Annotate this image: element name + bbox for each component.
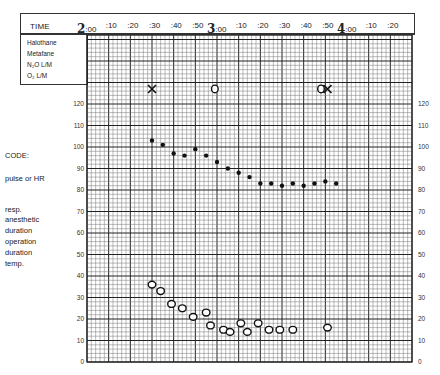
resp--marker — [202, 309, 210, 316]
pulse-or-hr-marker — [204, 153, 208, 157]
chart-grid — [0, 0, 440, 375]
pulse-or-hr-marker — [236, 171, 240, 175]
pulse-or-hr-marker — [226, 166, 230, 170]
pulse-or-hr-marker — [334, 181, 338, 185]
resp--marker — [324, 324, 332, 331]
pulse-or-hr-marker — [258, 181, 262, 185]
resp--marker — [189, 313, 197, 320]
resp--marker — [276, 326, 284, 333]
resp--marker — [226, 329, 234, 336]
resp--marker — [265, 326, 273, 333]
resp--marker — [207, 322, 215, 329]
operation-duration-marker — [212, 85, 219, 93]
pulse-or-hr-marker — [247, 175, 251, 179]
pulse-or-hr-marker — [323, 179, 327, 183]
pulse-or-hr-marker — [171, 151, 175, 155]
resp--marker — [254, 320, 262, 327]
resp--marker — [168, 301, 176, 308]
resp--marker — [289, 326, 297, 333]
pulse-or-hr-marker — [301, 184, 305, 188]
resp--marker — [244, 329, 252, 336]
pulse-or-hr-marker — [291, 181, 295, 185]
operation-duration-marker — [318, 85, 325, 93]
pulse-or-hr-marker — [312, 181, 316, 185]
resp--marker — [148, 281, 156, 288]
pulse-or-hr-marker — [215, 160, 219, 164]
pulse-or-hr-marker — [161, 143, 165, 147]
pulse-or-hr-marker — [280, 184, 284, 188]
pulse-or-hr-marker — [182, 153, 186, 157]
pulse-or-hr-marker — [193, 147, 197, 151]
resp--marker — [237, 320, 245, 327]
resp--marker — [157, 288, 165, 295]
resp--marker — [179, 305, 187, 312]
pulse-or-hr-marker — [269, 181, 273, 185]
pulse-or-hr-marker — [150, 138, 154, 142]
